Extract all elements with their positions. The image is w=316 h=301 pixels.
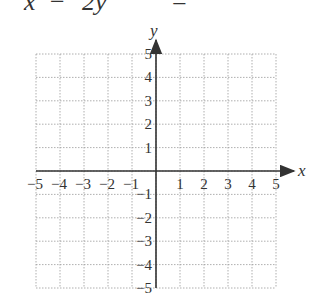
y-tick-label: 4 xyxy=(145,69,153,85)
x-tick-label: −2 xyxy=(99,176,115,192)
x-tick-label: −4 xyxy=(51,176,67,192)
x-tick-label: 2 xyxy=(200,176,208,192)
x-tick-label: 5 xyxy=(272,176,280,192)
y-axis-label: y xyxy=(148,21,158,40)
x-tick-labels: −5−4−3−2−112345 xyxy=(27,176,280,192)
x-tick-label: 3 xyxy=(224,176,232,192)
y-tick-label: −3 xyxy=(136,233,152,249)
y-tick-label: 1 xyxy=(145,140,153,156)
coordinate-plane: x y −5−4−3−2−112345 54321−1−2−3−4−5 xyxy=(0,0,316,301)
y-tick-label: −4 xyxy=(136,257,152,273)
y-tick-label: 5 xyxy=(145,46,153,62)
y-tick-label: −2 xyxy=(136,210,152,226)
x-tick-label: 4 xyxy=(248,176,256,192)
y-tick-label: −1 xyxy=(136,186,152,202)
x-tick-label: −3 xyxy=(75,176,91,192)
x-axis-label: x xyxy=(297,161,306,180)
y-tick-label: −5 xyxy=(136,280,152,296)
x-tick-label: −5 xyxy=(27,176,43,192)
y-tick-label: 3 xyxy=(145,93,153,109)
x-tick-label: 1 xyxy=(176,176,184,192)
y-tick-label: 2 xyxy=(145,116,153,132)
